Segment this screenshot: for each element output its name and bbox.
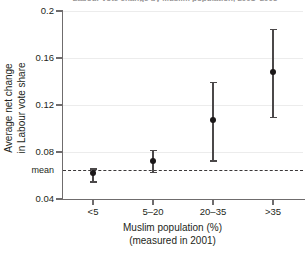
x-tick-mark	[272, 199, 273, 205]
y-axis-title-sub: in Labour vote share	[15, 13, 28, 203]
gridline	[63, 58, 303, 59]
data-point-marker[interactable]	[150, 158, 156, 164]
x-axis-title: Muslim population (%) (measured in 2001)	[40, 221, 305, 247]
data-point-marker[interactable]	[90, 170, 96, 176]
y-tick-mark	[56, 198, 63, 199]
gridline	[63, 11, 303, 12]
error-bar-cap-lower	[210, 160, 217, 161]
x-axis-title-sub: (measured in 2001)	[40, 234, 305, 247]
error-bar-cap-lower	[270, 117, 277, 118]
gridline	[63, 152, 303, 153]
error-bar-cap-upper	[270, 29, 277, 30]
x-tick-label: >35	[238, 206, 308, 217]
x-axis-title-main: Muslim population (%)	[40, 221, 305, 234]
x-tick-mark	[92, 199, 93, 205]
mean-dashed-line	[63, 170, 303, 171]
y-axis-title: Average net change in Labour vote share	[2, 13, 28, 203]
chart-title: Labour vote change by Muslim population,…	[60, 0, 290, 2]
chart-figure: Labour vote change by Muslim population,…	[0, 0, 308, 253]
x-axis-line	[62, 199, 305, 200]
gridline	[63, 105, 303, 106]
y-tick-mark	[56, 104, 63, 105]
error-bar-cap-lower	[90, 181, 97, 182]
data-point-marker[interactable]	[270, 69, 276, 75]
y-tick-mark	[56, 57, 63, 58]
y-tick-mark	[56, 151, 63, 152]
error-bar-cap-upper	[210, 82, 217, 83]
error-bar-cap-lower	[150, 172, 157, 173]
data-point-marker[interactable]	[210, 117, 216, 123]
error-bar-cap-upper	[150, 150, 157, 151]
x-tick-mark	[152, 199, 153, 205]
y-axis-title-main: Average net change	[2, 13, 15, 203]
y-tick-mark	[56, 10, 63, 11]
x-tick-mark	[212, 199, 213, 205]
